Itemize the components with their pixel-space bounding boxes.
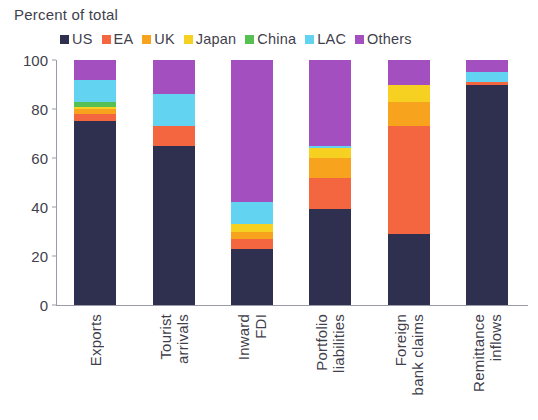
bar-segment-us[interactable]: [153, 146, 195, 305]
x-axis-line: [56, 305, 528, 306]
bar-segment-us[interactable]: [466, 85, 508, 306]
legend-label: China: [257, 31, 296, 47]
chart-legend: USEAUKJapanChinaLACOthers: [60, 31, 412, 47]
bar-segment-others[interactable]: [231, 60, 273, 202]
axis-title: Percent of total: [14, 6, 118, 23]
x-axis-label-line: inflows: [487, 314, 504, 361]
legend-swatch-icon: [305, 35, 314, 44]
legend-swatch-icon: [60, 35, 69, 44]
legend-label: EA: [114, 31, 134, 47]
legend-entry-japan: Japan: [184, 31, 237, 47]
bar-segment-ea[interactable]: [231, 239, 273, 249]
bar-segment-us[interactable]: [309, 209, 351, 305]
bar-segment-lac[interactable]: [153, 94, 195, 126]
legend-swatch-icon: [184, 35, 193, 44]
x-axis-label-line: Foreign: [392, 314, 409, 366]
y-tick-label: 20: [31, 248, 48, 265]
y-axis-tick-labels: 020406080100: [0, 60, 48, 305]
x-axis-label: Exports: [74, 314, 116, 418]
bar-group: [153, 60, 195, 305]
stacked-bar[interactable]: [153, 60, 195, 305]
bar-segment-uk[interactable]: [388, 102, 430, 127]
legend-entry-china: China: [245, 31, 296, 47]
y-tick-label: 80: [31, 101, 48, 118]
legend-entry-others: Others: [355, 31, 412, 47]
x-axis-label-line: Remittance: [470, 314, 487, 392]
bar-segment-others[interactable]: [466, 60, 508, 72]
legend-swatch-icon: [245, 35, 254, 44]
x-axis-label: Portfolioliabilities: [309, 314, 351, 418]
chart-container: Percent of total USEAUKJapanChinaLACOthe…: [0, 0, 538, 420]
legend-swatch-icon: [355, 35, 364, 44]
legend-label: UK: [154, 31, 175, 47]
x-axis-label-line: Exports: [87, 314, 104, 366]
legend-entry-ea: EA: [102, 31, 134, 47]
bar-group: [74, 60, 116, 305]
bar-segment-ea[interactable]: [74, 114, 116, 121]
bar-segment-lac[interactable]: [231, 202, 273, 224]
bar-segment-others[interactable]: [153, 60, 195, 94]
x-axis-label: Foreignbank claims: [388, 314, 430, 418]
bar-group: [388, 60, 430, 305]
x-axis-label-line: Tourist: [157, 314, 174, 360]
y-tick-label: 100: [23, 52, 48, 69]
bar-segment-japan[interactable]: [231, 224, 273, 231]
x-axis-label-line: FDI: [252, 314, 269, 339]
bar-segment-others[interactable]: [74, 60, 116, 80]
x-axis-label: Touristarrivals: [153, 314, 195, 418]
bar-group: [309, 60, 351, 305]
bar-group: [466, 60, 508, 305]
bar-segment-uk[interactable]: [309, 158, 351, 178]
stacked-bar[interactable]: [466, 60, 508, 305]
legend-label: Japan: [196, 31, 237, 47]
legend-label: Others: [367, 31, 412, 47]
bar-segment-ea[interactable]: [388, 126, 430, 234]
stacked-bar[interactable]: [388, 60, 430, 305]
x-axis-label-line: liabilities: [330, 314, 347, 373]
stacked-bar[interactable]: [231, 60, 273, 305]
x-axis-label-line: bank claims: [409, 314, 426, 395]
bar-segment-ea[interactable]: [153, 126, 195, 146]
stacked-bar[interactable]: [309, 60, 351, 305]
bar-segment-ea[interactable]: [309, 178, 351, 210]
bar-group: [231, 60, 273, 305]
legend-entry-us: US: [60, 31, 93, 47]
bar-segment-others[interactable]: [309, 60, 351, 146]
bar-segment-japan[interactable]: [388, 85, 430, 102]
legend-label: LAC: [317, 31, 346, 47]
legend-entry-uk: UK: [142, 31, 175, 47]
bar-segment-others[interactable]: [388, 60, 430, 85]
legend-swatch-icon: [102, 35, 111, 44]
plot-area: [56, 60, 526, 305]
legend-swatch-icon: [142, 35, 151, 44]
x-axis-label: InwardFDI: [231, 314, 273, 418]
legend-entry-lac: LAC: [305, 31, 346, 47]
x-axis-category-labels: ExportsTouristarrivalsInwardFDIPortfolio…: [56, 310, 526, 418]
bar-segment-us[interactable]: [388, 234, 430, 305]
y-tick-label: 60: [31, 150, 48, 167]
bar-segment-lac[interactable]: [74, 80, 116, 102]
y-tick-label: 0: [40, 297, 48, 314]
bar-segment-us[interactable]: [231, 249, 273, 305]
x-axis-label-line: Portfolio: [313, 314, 330, 371]
bar-segment-japan[interactable]: [309, 148, 351, 158]
bar-segment-lac[interactable]: [466, 72, 508, 82]
y-tick-label: 40: [31, 199, 48, 216]
x-axis-label-line: arrivals: [174, 314, 191, 364]
x-axis-label: Remittanceinflows: [466, 314, 508, 418]
stacked-bar[interactable]: [74, 60, 116, 305]
bar-segment-uk[interactable]: [231, 232, 273, 239]
x-axis-label-line: Inward: [235, 314, 252, 360]
legend-label: US: [72, 31, 93, 47]
bar-segment-us[interactable]: [74, 121, 116, 305]
